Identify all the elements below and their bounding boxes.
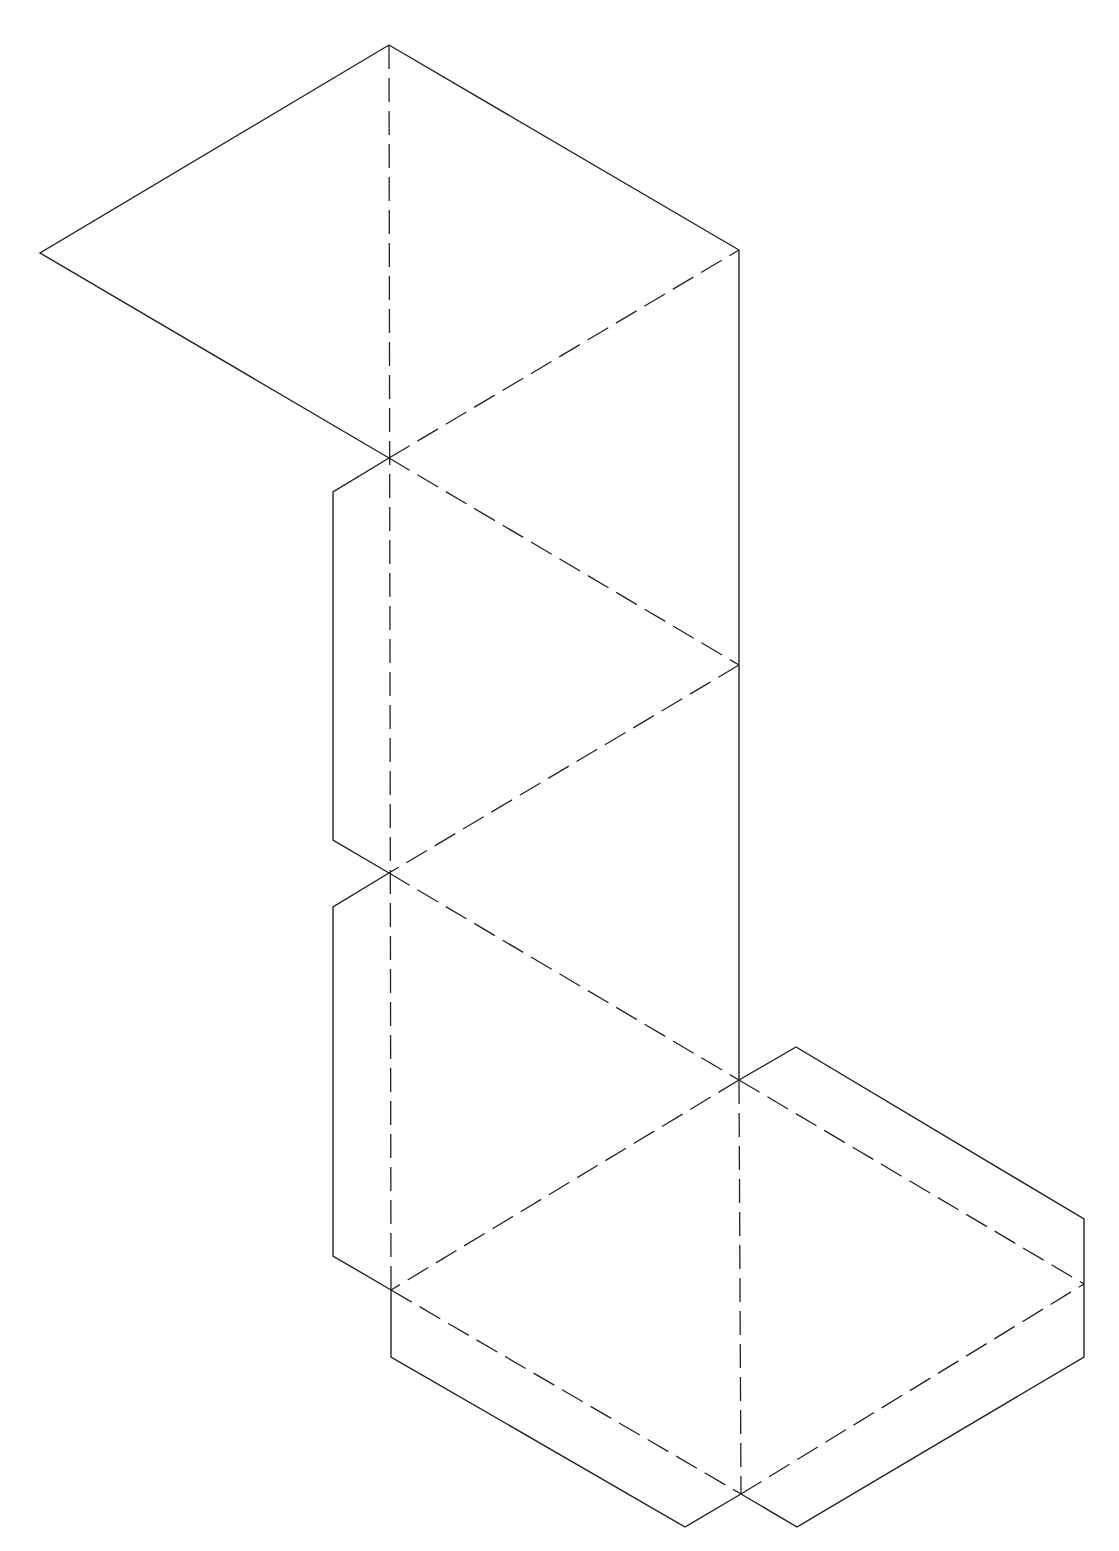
lower-left-tab	[333, 873, 391, 1290]
fold-r1-c2	[389, 665, 739, 873]
right-tab	[739, 1047, 1084, 1284]
right-lower-tab	[741, 1284, 1084, 1527]
cut-lines	[40, 45, 1084, 1527]
fold-r2-rr	[739, 1080, 1084, 1284]
top-left-face-outline	[40, 45, 389, 458]
fold-r2-bl	[391, 1080, 739, 1290]
fold-c1-r1	[389, 458, 739, 665]
bottom-tab	[391, 1290, 741, 1527]
fold-c2-r2	[389, 873, 739, 1080]
fold-c1-tr	[389, 250, 739, 458]
upper-left-tab	[333, 458, 389, 873]
fold-bl-b	[391, 1290, 741, 1494]
vertical-spine-fold	[389, 45, 391, 1290]
polyhedron-net-diagram	[0, 0, 1119, 1551]
fold-b-rr	[741, 1284, 1084, 1494]
top-right-edge	[389, 45, 739, 250]
fold-r2-b	[739, 1080, 741, 1494]
fold-lines	[389, 45, 1084, 1494]
